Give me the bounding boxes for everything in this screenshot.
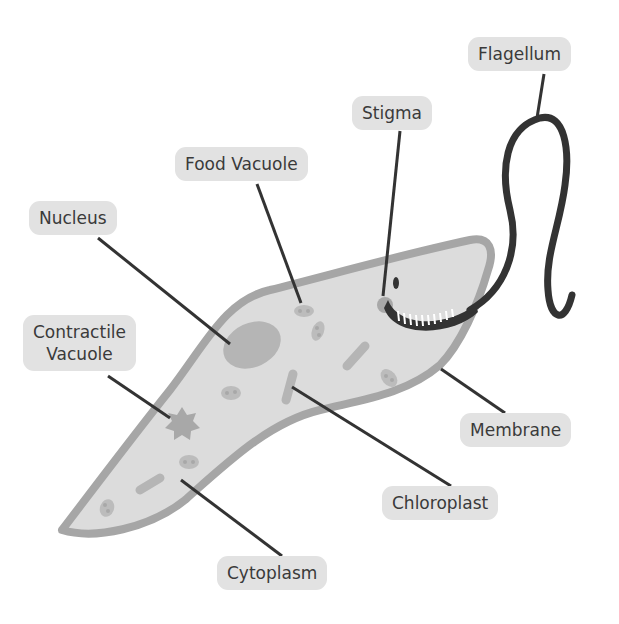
label-membrane: Membrane: [460, 413, 571, 447]
photoreceptor-dot: [393, 277, 399, 289]
euglena-illustration: [0, 0, 619, 624]
label-cytoplasm: Cytoplasm: [217, 556, 327, 590]
label-nucleus: Nucleus: [29, 201, 117, 235]
label-chloroplast: Chloroplast: [382, 486, 498, 520]
euglena-diagram: Flagellum Stigma Food Vacuole Nucleus Co…: [0, 0, 619, 624]
label-contractile-vacuole: Contractile Vacuole: [23, 315, 136, 371]
label-stigma: Stigma: [352, 96, 432, 130]
label-contractile-vacuole-line1: Contractile: [33, 321, 126, 343]
label-contractile-vacuole-line2: Vacuole: [33, 343, 126, 365]
label-flagellum: Flagellum: [468, 37, 571, 71]
label-food-vacuole: Food Vacuole: [175, 147, 308, 181]
